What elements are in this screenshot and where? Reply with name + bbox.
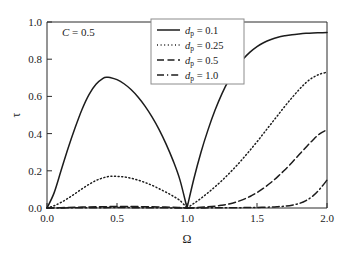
- y-tick-label-3: 0.6: [28, 90, 42, 102]
- y-axis-title: τ: [9, 112, 23, 117]
- x-tick-label-1: 0.5: [110, 212, 124, 224]
- y-tick-label-2: 0.4: [28, 128, 42, 140]
- figure-container: 0.0 0.2 0.4 0.6 0.8 1.0 0.0 0.5 1.0 1.5 …: [0, 0, 353, 256]
- legend: dp = 0.1 dp = 0.25 dp = 0.5 dp = 1.0: [151, 19, 244, 84]
- legend-value-3: = 1.0: [194, 70, 218, 81]
- svg-text:C = 0.5: C = 0.5: [62, 26, 95, 38]
- condition-annotation: C = 0.5: [62, 26, 95, 38]
- y-tick-label-1: 0.2: [28, 165, 42, 177]
- legend-value-2: = 0.5: [194, 55, 218, 66]
- condition-value: = 0.5: [69, 26, 95, 38]
- x-axis-title: Ω: [183, 232, 192, 246]
- x-tick-label-2: 1.0: [180, 212, 194, 224]
- x-tick-label-0: 0.0: [40, 212, 54, 224]
- y-tick-label-4: 0.8: [28, 53, 42, 65]
- y-tick-label-5: 1.0: [28, 16, 42, 28]
- chart-svg: 0.0 0.2 0.4 0.6 0.8 1.0 0.0 0.5 1.0 1.5 …: [0, 0, 353, 256]
- x-tick-label-4: 2.0: [320, 212, 334, 224]
- legend-value-1: = 0.25: [194, 40, 224, 51]
- x-tick-label-3: 1.5: [250, 212, 264, 224]
- legend-value-0: = 0.1: [194, 25, 218, 36]
